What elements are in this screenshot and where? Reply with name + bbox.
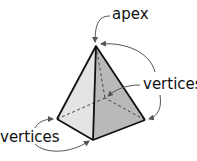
- left-face: [57, 46, 96, 140]
- apex-arrow: [95, 16, 110, 42]
- left-vertex-arrow-up: [35, 119, 53, 128]
- pyramid-diagram: apex vertices vertices: [0, 0, 197, 161]
- vertices-label-right: vertices: [143, 77, 197, 92]
- vertices-label-left: vertices: [0, 130, 60, 145]
- right-face: [93, 46, 145, 140]
- right-vertex-arrow-down: [149, 95, 161, 119]
- apex-label: apex: [112, 7, 149, 22]
